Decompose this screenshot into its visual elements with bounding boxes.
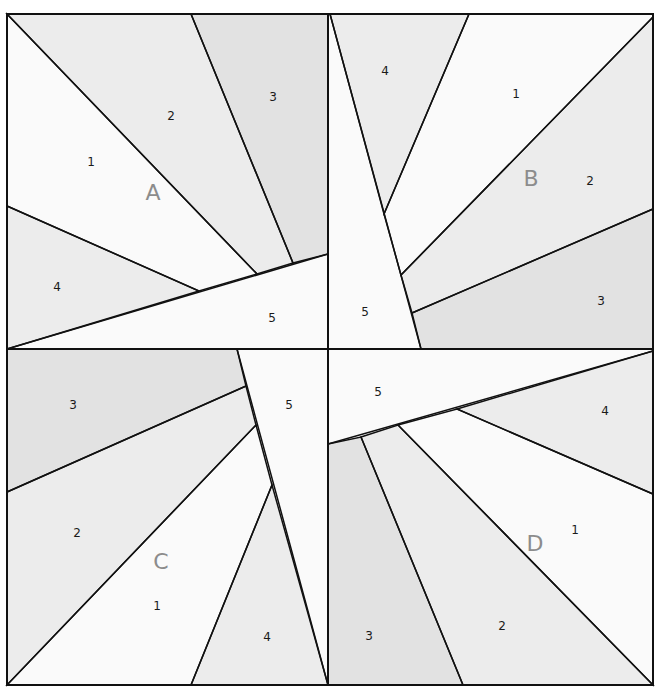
piece-number-label: 1 — [87, 155, 95, 169]
piece-number-label: 1 — [512, 87, 520, 101]
piece-number-label: 1 — [571, 523, 579, 537]
piece-number-label: 2 — [73, 526, 81, 540]
block-letter-label: A — [145, 180, 160, 205]
block-letter-label: B — [523, 166, 538, 191]
piece-number-label: 3 — [69, 398, 77, 412]
block-letter-label: C — [153, 549, 168, 574]
piece-number-label: 4 — [263, 630, 271, 644]
piece-number-label: 3 — [597, 294, 605, 308]
piece-number-label: 5 — [268, 311, 276, 325]
piece-number-label: 3 — [365, 629, 373, 643]
piece-number-label: 5 — [361, 305, 369, 319]
quilt-pattern-diagram: 12345A12345B12345C12345D — [0, 0, 655, 688]
block-letter-label: D — [527, 531, 544, 556]
piece-number-label: 1 — [153, 599, 161, 613]
piece-number-label: 2 — [167, 109, 175, 123]
piece-number-label: 4 — [381, 64, 389, 78]
piece-number-label: 5 — [374, 385, 382, 399]
piece-number-label: 3 — [269, 90, 277, 104]
piece-number-label: 2 — [586, 174, 594, 188]
piece-number-label: 4 — [53, 280, 61, 294]
piece-number-label: 2 — [498, 619, 506, 633]
piece-number-label: 4 — [601, 404, 609, 418]
piece-number-label: 5 — [285, 398, 293, 412]
